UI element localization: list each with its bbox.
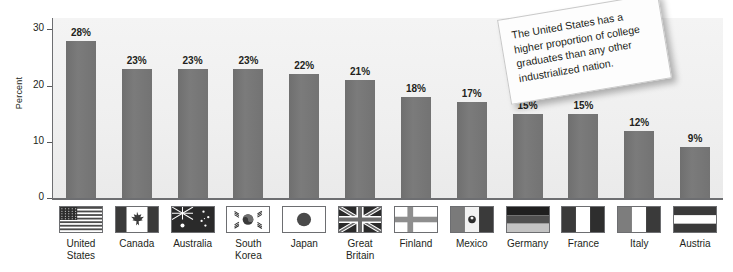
bar-value-label: 23% xyxy=(168,55,218,66)
x-axis-category: Italy xyxy=(612,206,666,250)
y-tick-label: 10 xyxy=(22,135,44,146)
x-axis-category: Finland xyxy=(389,206,443,250)
y-tick-label: 30 xyxy=(22,22,44,33)
flag-south-korea-icon xyxy=(226,206,270,233)
bar xyxy=(233,69,263,198)
bar-value-label: 23% xyxy=(112,55,162,66)
flag-japan-icon xyxy=(282,206,326,233)
bar-value-label: 22% xyxy=(279,60,329,71)
bar xyxy=(513,114,543,198)
x-axis-category: Austria xyxy=(668,206,722,250)
bar-value-label: 17% xyxy=(447,88,497,99)
x-axis-category-label: Germany xyxy=(501,238,555,250)
x-axis-category-label: United States xyxy=(54,238,108,261)
bar xyxy=(345,80,375,198)
bar-value-label: 28% xyxy=(56,27,106,38)
flag-germany-icon xyxy=(506,206,550,233)
bar xyxy=(66,41,96,199)
x-axis-category: United States xyxy=(54,206,108,261)
x-axis-category-label: Mexico xyxy=(445,238,499,250)
bar xyxy=(568,114,598,198)
bar xyxy=(401,97,431,198)
flag-canada-icon xyxy=(115,206,159,233)
bar-chart: Percent 0102030 28%23%23%23%22%21%18%17%… xyxy=(0,0,733,272)
flag-mexico-icon xyxy=(450,206,494,233)
y-tick-label: 0 xyxy=(22,191,44,202)
bar-value-label: 12% xyxy=(614,117,664,128)
x-axis-category-label: France xyxy=(556,238,610,250)
bar xyxy=(624,131,654,199)
x-axis-category-label: Canada xyxy=(110,238,164,250)
flag-united-states-icon xyxy=(59,206,103,233)
bar-value-label: 9% xyxy=(670,133,720,144)
bar xyxy=(680,147,710,198)
flag-austria-icon xyxy=(673,206,717,233)
bar xyxy=(457,102,487,198)
x-axis-category-label: Japan xyxy=(277,238,331,250)
bar-value-label: 15% xyxy=(558,100,608,111)
flag-france-icon xyxy=(561,206,605,233)
x-axis-line xyxy=(52,198,723,200)
bar xyxy=(122,69,152,198)
flag-italy-icon xyxy=(617,206,661,233)
x-axis-category: France xyxy=(556,206,610,250)
bar-value-label: 23% xyxy=(223,55,273,66)
x-axis-category-label: Austria xyxy=(668,238,722,250)
x-axis-category: South Korea xyxy=(221,206,275,261)
y-tick-label: 20 xyxy=(22,79,44,90)
x-axis-category: Great Britain xyxy=(333,206,387,261)
x-axis-category-label: Australia xyxy=(166,238,220,250)
x-axis-category: Mexico xyxy=(445,206,499,250)
flag-australia-icon xyxy=(171,206,215,233)
annotation-note-text: The United States has a higher proportio… xyxy=(511,5,658,85)
x-axis-category-label: South Korea xyxy=(221,238,275,261)
bar-value-label: 18% xyxy=(391,83,441,94)
x-axis-category: Japan xyxy=(277,206,331,250)
y-axis-title: Percent xyxy=(14,58,24,128)
bar xyxy=(178,69,208,198)
x-axis-category-label: Great Britain xyxy=(333,238,387,261)
x-axis-category: Germany xyxy=(501,206,555,250)
x-axis-category: Australia xyxy=(166,206,220,250)
bar xyxy=(289,74,319,198)
flag-great-britain-icon xyxy=(338,206,382,233)
flag-finland-icon xyxy=(394,206,438,233)
x-axis-category-label: Italy xyxy=(612,238,666,250)
x-axis-category-label: Finland xyxy=(389,238,443,250)
bar-value-label: 21% xyxy=(335,66,385,77)
x-axis-category: Canada xyxy=(110,206,164,250)
